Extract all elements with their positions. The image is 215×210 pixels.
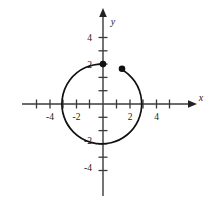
y-tick-label-neg4: -4 [84, 163, 92, 173]
y-tick-label-pos4: 4 [87, 33, 92, 43]
y-axis-arrow-icon [99, 8, 107, 17]
circle-arc-graph-figure: -4 -2 2 4 4 2 -2 -4 x y [0, 0, 215, 210]
y-tick-label-neg2: -2 [84, 136, 92, 146]
x-tick-label-pos4: 4 [154, 112, 159, 122]
arc-start-point-marker [100, 61, 107, 68]
y-tick-label-pos2: 2 [87, 60, 92, 70]
x-tick-label-neg4: -4 [46, 112, 54, 122]
x-tick-label-pos2: 2 [128, 112, 133, 122]
arc-end-point-marker [119, 66, 126, 73]
x-axis-label: x [198, 92, 204, 103]
coordinate-plane-svg: -4 -2 2 4 4 2 -2 -4 x y [0, 0, 215, 210]
x-axis-arrow-icon [188, 100, 197, 108]
y-axis-label: y [110, 16, 116, 27]
x-tick-label-neg2: -2 [73, 112, 81, 122]
